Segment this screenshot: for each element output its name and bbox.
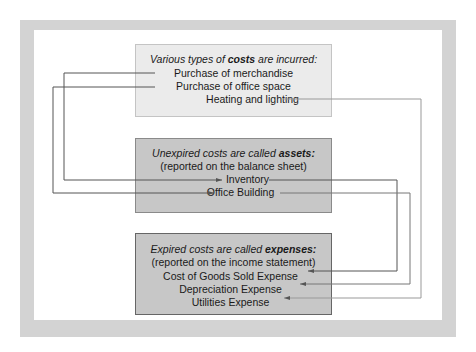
connector-heating-to-utilities bbox=[283, 99, 421, 298]
connector-office-space-to-building bbox=[53, 87, 214, 193]
connector-building-to-depreciation bbox=[280, 193, 410, 284]
connector-merchandise-to-inventory bbox=[64, 73, 222, 180]
connector-inventory-to-cogs bbox=[269, 180, 397, 271]
connector-lines bbox=[0, 0, 476, 352]
